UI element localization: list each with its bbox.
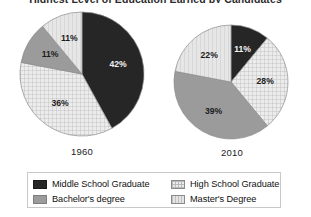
legend-label-masters: Master's Degree: [190, 194, 256, 204]
legend-label-middle-school: Middle School Graduate: [52, 179, 149, 189]
pie-year-label-1960: 1960: [16, 146, 148, 157]
chart-title: Highest Level of Education Earned by Can…: [0, 0, 311, 3]
pie-slice-label: 22%: [201, 50, 219, 60]
pie-slice-label: 11%: [42, 49, 59, 59]
pie-chart-1960: 42%36%11%11% 1960: [16, 10, 148, 157]
pie-slice-label: 11%: [61, 33, 78, 43]
legend-item-high-school: High School Graduate: [171, 177, 283, 191]
legend-swatch-high-school-icon: [171, 180, 185, 189]
pie-slice-label: 36%: [51, 98, 69, 108]
pie-chart-2010: 11%28%39%22% 2010: [172, 23, 292, 158]
pie-chart-figure: Highest Level of Education Earned by Can…: [0, 0, 311, 217]
pie-1960-graphic: 42%36%11%11%: [16, 10, 148, 142]
legend-item-bachelors: Bachelor's degree: [33, 192, 168, 206]
legend-label-high-school: High School Graduate: [190, 179, 279, 189]
legend-swatch-middle-school-icon: [33, 180, 47, 189]
legend-swatch-bachelors-icon: [33, 195, 47, 204]
legend-column-left: Middle School Graduate Bachelor's degree: [33, 177, 168, 207]
legend-item-masters: Master's Degree: [171, 192, 283, 206]
pie-slice-label: 39%: [205, 106, 223, 116]
pie-slice-label: 11%: [234, 44, 251, 54]
pie-slice-label: 42%: [109, 59, 127, 69]
legend-column-right: High School Graduate Master's Degree: [171, 177, 283, 207]
chart-legend: Middle School Graduate Bachelor's degree…: [27, 172, 281, 208]
pie-year-label-2010: 2010: [172, 147, 292, 158]
legend-item-middle-school: Middle School Graduate: [33, 177, 168, 191]
legend-swatch-masters-icon: [171, 195, 185, 204]
pie-2010-graphic: 11%28%39%22%: [172, 23, 292, 143]
pie-slice-label: 28%: [257, 76, 275, 86]
legend-label-bachelors: Bachelor's degree: [52, 194, 125, 204]
